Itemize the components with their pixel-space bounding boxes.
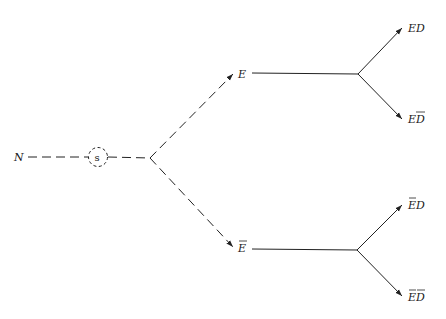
edge-to-ED-bar	[358, 74, 402, 119]
outcome-label-E-bar-D: ED	[407, 199, 425, 212]
edge-to-E-bar-D-bar	[357, 250, 402, 296]
outcome-label-E-bar-D-bar: ED	[407, 291, 425, 304]
node-label-E: E	[237, 68, 246, 81]
edge-to-E	[150, 74, 233, 158]
edge-E-bar-to-fork	[252, 249, 357, 250]
probability-tree-diagram: N s E E ED ED ED ED	[0, 0, 446, 319]
chance-node-label: s	[95, 152, 100, 163]
outcome-label-ED: ED	[407, 22, 425, 35]
edge-chance-to-split	[108, 157, 150, 158]
edge-E-to-fork	[252, 73, 358, 74]
edge-to-ED	[358, 28, 402, 74]
root-label-N: N	[13, 151, 24, 164]
edge-to-E-bar-D	[357, 205, 402, 250]
node-label-E-bar: E	[237, 242, 246, 255]
outcome-label-ED-bar: ED	[407, 113, 425, 126]
edge-to-E-bar	[150, 158, 233, 247]
